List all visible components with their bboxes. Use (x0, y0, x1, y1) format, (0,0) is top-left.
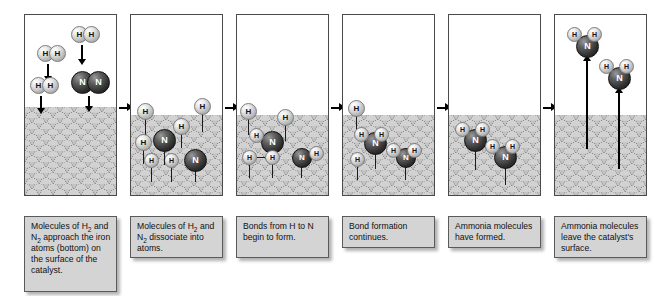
hydrogen-atom: H (485, 139, 500, 154)
hydrogen-atom: H (407, 143, 422, 158)
caption-box-4: Bond formation continues. (342, 216, 435, 248)
hydrogen-atom: H (249, 128, 264, 143)
atom-label: H (490, 143, 495, 150)
bond-stem (171, 168, 172, 182)
atom-label: H (247, 154, 252, 161)
hydrogen-atom: H (619, 59, 634, 74)
hydrogen-atom: H (194, 98, 211, 115)
atom-label: H (510, 143, 515, 150)
hydrogen-atom: H (348, 100, 365, 117)
atom-label: H (604, 63, 609, 70)
nitrogen-atom: N (153, 129, 176, 152)
hydrogen-atom: H (135, 134, 152, 151)
bond-stem (272, 165, 273, 178)
process-panel-3: H H N H H H N H (236, 14, 329, 196)
hydrogen-atom: H (164, 153, 179, 168)
bond-stem (151, 168, 152, 182)
atom-label: H (48, 82, 54, 90)
nitrogen-atom: N (184, 149, 207, 172)
atom-label: N (299, 154, 305, 162)
bond-stem (164, 151, 165, 165)
bond-link (257, 157, 265, 158)
hydrogen-atom: H (475, 122, 490, 137)
hydrogen-atom: H (374, 127, 389, 142)
hydrogen-atom: H (567, 27, 582, 42)
atom-label: H (149, 157, 154, 164)
caption-text: Ammonia molecules leave the catalyst's s… (561, 221, 638, 253)
catalyst-surface-1 (25, 107, 116, 195)
atom-label: H (354, 105, 360, 113)
caption-text: Ammonia molecules have formed. (455, 221, 532, 242)
hydrogen-atom: H (173, 118, 190, 135)
caption-text: Bond formation continues. (349, 221, 407, 242)
atom-label: H (391, 147, 396, 154)
caption-text: Molecules of H2 and N2 dissociate into a… (137, 221, 214, 253)
hydrogen-atom: H (386, 143, 401, 158)
atom-label: H (43, 50, 49, 58)
process-panel-1: H H H H H H N N (24, 14, 117, 196)
hydrogen-atom: H (309, 146, 324, 161)
process-panel-5: N H H N H H (448, 14, 541, 196)
bond-stem (249, 165, 250, 178)
atom-label: H (55, 50, 61, 58)
atom-label: H (246, 108, 252, 116)
atom-label: H (572, 31, 577, 38)
bond-stem (145, 119, 146, 135)
bond-stem (181, 134, 182, 148)
atom-label: N (79, 78, 86, 87)
atom-label: H (460, 126, 465, 133)
bond-stem (475, 150, 476, 170)
hydrogen-atom: H (350, 152, 365, 167)
panel-6-scene: N H H N H H (555, 15, 646, 195)
panel-2-scene: H H H H H H N N (131, 15, 222, 195)
atom-label: H (143, 108, 149, 116)
hydrogen-atom: H (265, 150, 280, 165)
hydrogen-atom: H (242, 150, 257, 165)
atom-label: H (270, 154, 275, 161)
hydrogen-atom: H (240, 103, 257, 120)
atom-label: N (192, 156, 199, 165)
caption-box-5: Ammonia molecules have formed. (448, 216, 541, 248)
atom-label: N (502, 153, 509, 162)
atom-label: H (359, 131, 364, 138)
hydrogen-atom: H (599, 59, 614, 74)
hydrogen-atom: H (83, 26, 100, 43)
caption-box-3: Bonds from H to N begin to form. (236, 216, 329, 258)
atom-label: H (624, 63, 629, 70)
panel-1-scene: H H H H H H N N (25, 15, 116, 195)
bond-stem (357, 167, 358, 180)
atom-label: H (141, 139, 147, 147)
diagram-canvas: H H H H H H N N (0, 0, 670, 296)
atom-label: H (200, 103, 206, 111)
atom-label: H (480, 126, 485, 133)
hydrogen-atom: H (49, 45, 66, 62)
atom-label: N (269, 138, 276, 147)
atom-label: H (169, 157, 174, 164)
hydrogen-atom: H (354, 127, 369, 142)
atom-label: H (179, 123, 185, 131)
bond-stem (375, 153, 376, 169)
bond-stem (285, 125, 286, 141)
atom-label: H (89, 31, 95, 39)
atom-label: N (95, 78, 102, 87)
hydrogen-atom: H (144, 153, 159, 168)
atom-label: N (584, 42, 591, 51)
atom-label: H (283, 114, 289, 122)
atom-label: H (314, 150, 319, 157)
caption-box-6: Ammonia molecules leave the catalyst's s… (554, 216, 647, 258)
bond-stem (505, 167, 506, 185)
bond-stem (301, 167, 302, 178)
process-panel-2: H H H H H H N N (130, 14, 223, 196)
panel-3-scene: H H N H H H N H (237, 15, 328, 195)
hydrogen-atom: H (505, 139, 520, 154)
bond-stem (202, 114, 203, 132)
atom-label: H (77, 31, 83, 39)
caption-text: Molecules of H2 and N2 approach the iron… (31, 221, 110, 275)
hydrogen-atom: H (137, 103, 154, 120)
atom-label: H (36, 82, 42, 90)
bond-stem (405, 167, 406, 180)
caption-box-1: Molecules of H2 and N2 approach the iron… (24, 216, 117, 292)
atom-label: H (379, 131, 384, 138)
hydrogen-atom: H (42, 77, 59, 94)
hydrogen-atom: H (587, 27, 602, 42)
